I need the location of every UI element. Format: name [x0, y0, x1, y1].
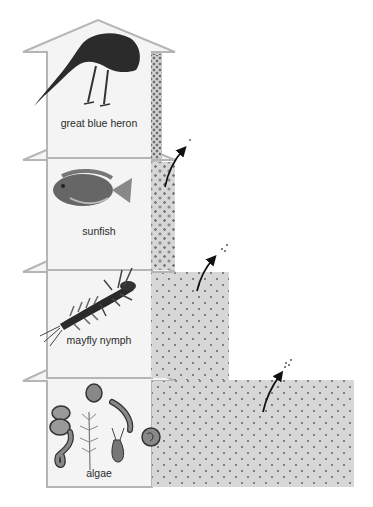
heat-loss-arrows	[0, 0, 373, 507]
heat-loss-arrow-algae	[263, 359, 292, 412]
energy-pyramid-diagram: great blue heron sunfish mayfly nymph al…	[0, 0, 373, 507]
heat-loss-arrow-sunfish	[165, 139, 191, 187]
heat-loss-arrow-mayfly	[197, 244, 228, 291]
